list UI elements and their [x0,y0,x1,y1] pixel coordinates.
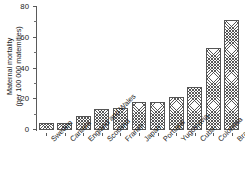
x-axis-labels: SwedenCanadaEngland and WalesScotlandFra… [36,130,241,195]
x-tick [83,133,84,136]
bar-series [37,7,241,130]
x-tick [213,133,214,136]
x-tick [139,133,140,136]
plot-area: 020406080 [36,7,241,130]
y-tick-label: 80 [20,2,29,11]
y-tick-label: 0 [25,125,29,134]
maternal-mortality-bar-chart: Maternal mortality (per 100 000 maternit… [0,0,245,195]
x-tick [176,133,177,136]
x-tick [195,133,196,136]
x-tick [158,133,159,136]
x-tick [120,133,121,136]
x-tick [65,133,66,136]
x-tick [102,133,103,136]
bar [39,123,54,130]
x-tick [232,133,233,136]
x-tick [46,133,47,136]
y-tick-label: 60 [20,32,29,41]
y-tick-label: 20 [20,94,29,103]
bar [224,20,239,130]
y-axis-title-line-1: Maternal mortality [5,37,14,94]
y-tick-label: 40 [20,63,29,72]
